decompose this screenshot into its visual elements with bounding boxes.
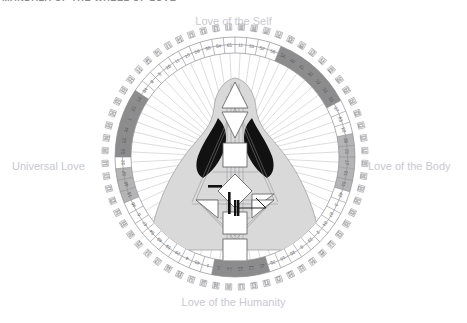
gate-number: 46 — [130, 201, 137, 208]
hexagram-glyph-icon — [225, 24, 231, 30]
hexagram-glyph-icon — [164, 41, 173, 50]
gate-number: 6 — [136, 212, 142, 217]
hexagram-glyph-icon — [225, 284, 231, 290]
hexagram-glyph-icon — [153, 48, 162, 57]
hexagram-glyph-icon — [327, 240, 336, 249]
hexagram-glyph-icon — [348, 97, 356, 105]
gate-divider — [245, 38, 247, 54]
hexagram-glyph-icon — [164, 264, 173, 273]
hexagram-glyph-icon — [335, 230, 344, 239]
hexagram-glyph-icon — [318, 56, 327, 65]
gate-number: 50 — [121, 148, 126, 154]
rave-mandala: 1110525854494130193955376322362517215142… — [100, 22, 370, 292]
hexagram-glyph-icon — [126, 230, 135, 239]
hexagram-glyph-icon — [360, 134, 367, 141]
hexagram-glyph-icon — [360, 173, 367, 180]
center-root — [223, 239, 247, 261]
label-love-of-the-humanity: Love of the Humanity — [0, 296, 467, 308]
hexagram-glyph-icon — [126, 75, 135, 84]
gate-number: 20 — [289, 250, 296, 257]
hexagram-glyph-icon — [362, 160, 368, 166]
gate-number: 10 — [184, 52, 191, 59]
hexagram-glyph-icon — [119, 86, 128, 95]
hexagram-glyph-icon — [153, 257, 162, 266]
gate-number: 11 — [174, 57, 181, 64]
hexagram-glyph-icon — [238, 24, 244, 30]
hexagram-glyph-icon — [263, 27, 271, 35]
hexagram-glyph-icon — [286, 270, 294, 278]
hexagram-glyph-icon — [200, 279, 208, 287]
hexagram-glyph-icon — [308, 48, 317, 57]
hexagram-glyph-icon — [103, 134, 110, 141]
gate-number: 32 — [120, 159, 125, 165]
gate-number: 61 — [227, 42, 233, 47]
hexagram-glyph-icon — [348, 208, 356, 216]
gate-number: 17 — [344, 160, 349, 166]
hexagram-glyph-icon — [251, 25, 258, 32]
hexagram-glyph-icon — [298, 264, 307, 273]
gate-number: 25 — [344, 149, 349, 155]
gate-number: 29 — [174, 249, 181, 256]
label-universal-love: Universal Love — [12, 160, 85, 172]
hexagram-glyph-icon — [187, 31, 195, 39]
hexagram-glyph-icon — [275, 275, 283, 283]
hexagram-glyph-icon — [308, 257, 317, 266]
hexagram-glyph-icon — [238, 284, 244, 290]
hexagram-glyph-icon — [105, 185, 113, 193]
hexagram-glyph-icon — [102, 160, 108, 166]
hexagram-glyph-icon — [102, 147, 108, 153]
hexagram-glyph-icon — [362, 147, 368, 153]
hexagram-glyph-icon — [342, 86, 351, 95]
bodygraph — [150, 78, 320, 261]
hexagram-glyph-icon — [113, 97, 121, 105]
hexagram-glyph-icon — [187, 275, 195, 283]
hexagram-glyph-icon — [212, 25, 219, 32]
hexagram-glyph-icon — [113, 208, 121, 216]
hexagram-glyph-icon — [143, 249, 152, 258]
hexagram-glyph-icon — [298, 41, 307, 50]
center-throat — [223, 143, 247, 167]
gate-number: 27 — [327, 211, 334, 218]
hexagram-glyph-icon — [353, 109, 361, 117]
page-title: MANDALA OF THE WHEEL OF LOVE — [2, 0, 176, 3]
hexagram-glyph-icon — [342, 220, 351, 229]
gate-number: 37 — [333, 106, 340, 113]
mandala-page: MANDALA OF THE WHEEL OF LOVE Love of the… — [0, 0, 467, 323]
hexagram-glyph-icon — [103, 173, 110, 180]
hexagram-glyph-icon — [286, 35, 294, 43]
hexagram-glyph-icon — [143, 56, 152, 65]
hexagram-glyph-icon — [263, 279, 271, 287]
hexagram-glyph-icon — [109, 109, 117, 117]
gate-number: 14 — [226, 266, 232, 271]
hexagram-glyph-icon — [251, 282, 258, 289]
hexagram-glyph-icon — [119, 220, 128, 229]
hexagram-glyph-icon — [175, 35, 183, 43]
hexagram-glyph-icon — [134, 240, 143, 249]
hexagram-glyph-icon — [318, 249, 327, 258]
label-love-of-the-body: Love of the Body — [368, 160, 451, 172]
hexagram-glyph-icon — [357, 122, 365, 130]
hexagram-glyph-icon — [134, 65, 143, 74]
hexagram-glyph-icon — [335, 75, 344, 84]
gate-divider — [223, 38, 225, 54]
hexagram-glyph-icon — [275, 31, 283, 39]
hexagram-glyph-icon — [327, 65, 336, 74]
gate-number: 16 — [279, 255, 286, 262]
hexagram-glyph-icon — [353, 197, 361, 205]
gate-number: 11 — [238, 43, 243, 48]
hexagram-glyph-icon — [175, 270, 183, 278]
hexagram-glyph-icon — [105, 122, 113, 130]
gate-number: 15 — [237, 266, 243, 271]
hexagram-glyph-icon — [109, 197, 117, 205]
hexagram-glyph-icon — [200, 27, 208, 35]
hexagram-glyph-icon — [212, 282, 219, 289]
hexagram-glyph-icon — [357, 185, 365, 193]
